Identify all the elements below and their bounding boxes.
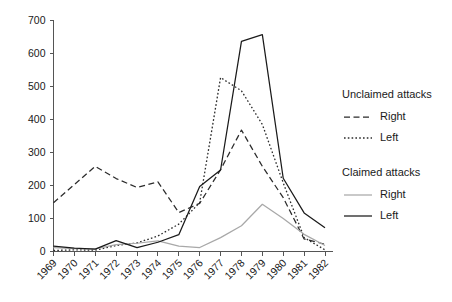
- attacks-line-chart: 0100200300400500600700 19691970197119721…: [0, 0, 452, 302]
- legend-group-title: Unclaimed attacks: [342, 88, 432, 100]
- legend-entry-label: Left: [380, 209, 398, 221]
- chart-background: [0, 0, 452, 302]
- y-axis-tick-label: 600: [28, 47, 46, 59]
- y-axis-tick-label: 300: [28, 146, 46, 158]
- legend-entry-label: Right: [380, 188, 406, 200]
- y-axis-tick-label: 500: [28, 80, 46, 92]
- y-axis-tick-label: 700: [28, 14, 46, 26]
- legend-entry-label: Left: [380, 131, 398, 143]
- y-axis-tick-label: 400: [28, 113, 46, 125]
- y-axis-tick-label: 100: [28, 212, 46, 224]
- y-axis-tick-label: 200: [28, 179, 46, 191]
- legend-entry-label: Right: [380, 110, 406, 122]
- chart-container: 0100200300400500600700 19691970197119721…: [0, 0, 452, 302]
- y-axis-tick-label: 0: [40, 245, 46, 257]
- legend-group-title: Claimed attacks: [342, 166, 421, 178]
